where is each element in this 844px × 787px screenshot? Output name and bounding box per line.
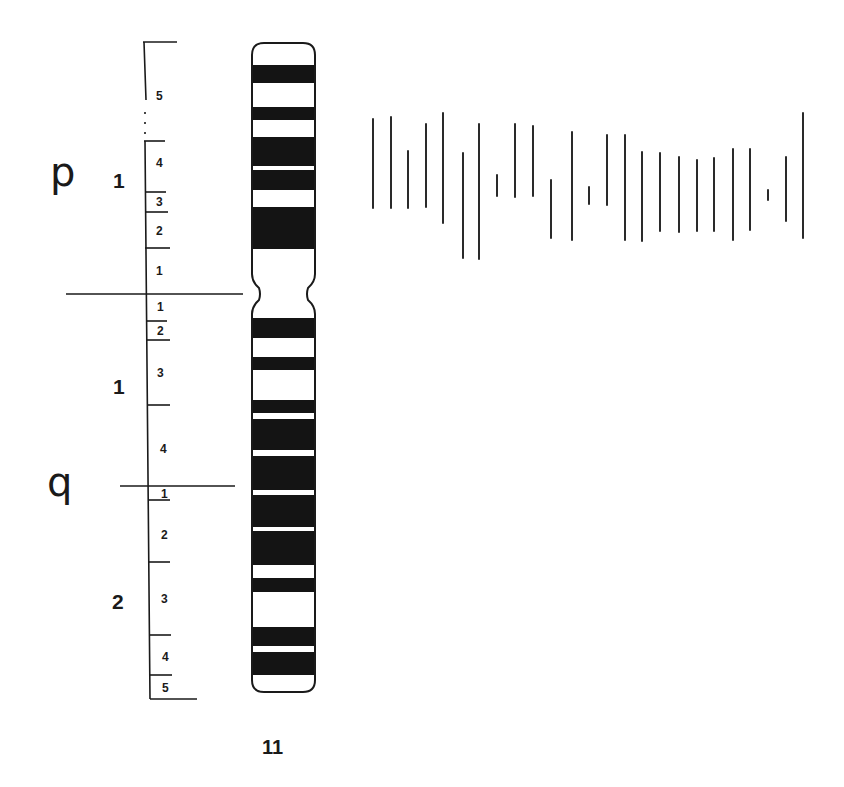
- dark-band: [250, 495, 317, 527]
- dark-band: [250, 578, 317, 592]
- dark-band: [250, 531, 317, 565]
- chromosome-number-label: 11: [262, 737, 283, 757]
- dark-band: [250, 170, 317, 190]
- dark-band: [250, 65, 317, 83]
- chromosome-ideogram: [250, 43, 317, 692]
- band-label-q14: 4: [160, 443, 167, 455]
- region-label-p1: 1: [113, 170, 125, 191]
- band-label-p11: 1: [156, 265, 163, 277]
- dark-band: [250, 456, 317, 490]
- dark-band: [250, 207, 317, 249]
- band-label-q13: 3: [157, 367, 164, 379]
- ideogram-canvas: [0, 0, 844, 787]
- band-label-p14: 4: [156, 157, 163, 169]
- band-label-q22: 2: [161, 529, 168, 541]
- band-label-p15: 5: [156, 90, 163, 102]
- band-label-q11: 1: [157, 301, 164, 313]
- dark-band: [250, 652, 317, 675]
- band-label-q21: 1: [161, 488, 168, 500]
- band-label-p13: 3: [156, 196, 163, 208]
- dark-band: [250, 400, 317, 413]
- region-label-q1: 1: [113, 376, 125, 397]
- band-ruler: [66, 42, 243, 699]
- arm-label-p: p: [50, 152, 75, 192]
- band-label-q12: 2: [157, 325, 164, 337]
- region-label-q2: 2: [112, 591, 124, 612]
- dark-band: [250, 318, 317, 338]
- dark-band: [250, 419, 317, 450]
- dark-band: [250, 627, 317, 646]
- chromosome-11-diagram: p q 1 1 2 5 4 3 2 1 1 2 3 4 1 2 3 4 5 11: [0, 0, 844, 787]
- dark-band: [250, 107, 317, 120]
- marker-line-set: [373, 113, 803, 259]
- band-label-q23: 3: [161, 593, 168, 605]
- band-label-q25: 5: [162, 682, 169, 694]
- band-label-p12: 2: [156, 225, 163, 237]
- dark-band: [250, 357, 317, 370]
- arm-label-q: q: [47, 462, 72, 502]
- band-label-q24: 4: [162, 651, 169, 663]
- dark-band: [250, 137, 317, 166]
